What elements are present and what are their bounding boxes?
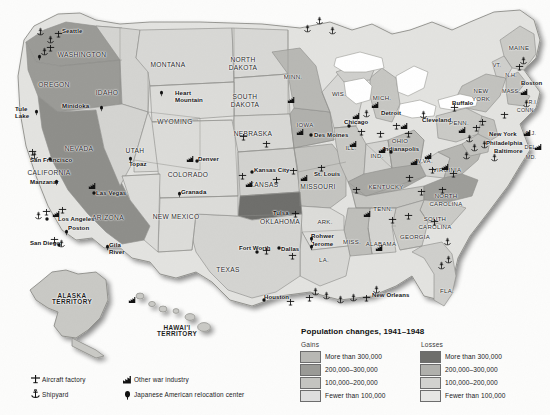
city-dot-icon: [250, 170, 254, 174]
legend-other-war-industry: Other war industry: [120, 375, 189, 384]
shipyard-icon: [419, 111, 428, 120]
state-label: MISSOURI: [300, 184, 335, 191]
other-war-industry-icon: [287, 96, 296, 104]
gains-legend-item: 200,000–300,000: [300, 363, 420, 376]
legend-label: More than 300,000: [325, 353, 382, 360]
legend-swatch: [300, 364, 321, 376]
city-label: Tulsa: [273, 210, 289, 216]
legend-swatch: [420, 364, 441, 376]
japanese-american-relocation-center-icon: [176, 190, 183, 199]
shipyard-icon: [362, 110, 371, 119]
state-label: WIS.: [332, 91, 346, 97]
shipyard-icon: [480, 141, 489, 150]
shipyard-icon: [30, 152, 39, 161]
shipyard-icon: [315, 17, 324, 26]
gains-legend-item: More than 300,000: [300, 350, 420, 363]
aircraft-factory-icon: [239, 133, 248, 142]
japanese-american-relocation-center-icon: [98, 104, 105, 113]
japanese-american-relocation-center-icon: [127, 155, 134, 164]
other-war-industry-icon: [424, 152, 433, 160]
shipyard-icon: [303, 25, 312, 34]
city-dot-icon: [92, 191, 96, 195]
aircraft-factory-icon: [262, 247, 271, 256]
legend-label: More than 300,000: [445, 353, 502, 360]
shipyard-icon: [34, 212, 43, 221]
losses-legend-item: More than 300,000: [420, 350, 540, 363]
aircraft-factory-icon: [500, 111, 509, 120]
state-label: MAINE: [509, 45, 530, 51]
aircraft-factory-icon: [376, 130, 385, 139]
shipyard-icon: [462, 152, 471, 161]
other-war-industry-icon: [300, 174, 309, 182]
other-war-industry-icon: [375, 244, 384, 252]
other-war-industry-icon: [363, 210, 372, 218]
state-label: LA.: [319, 257, 329, 263]
state-label: KENTUCKY: [368, 184, 403, 190]
shipyard-icon: [328, 27, 337, 36]
aircraft-factory-icon: [388, 216, 397, 225]
state-label: OKLAHOMA: [260, 219, 300, 226]
symbol-legend: Aircraft factory Other war industry Ship…: [28, 372, 263, 402]
aircraft-factory-icon: [288, 252, 297, 261]
legend-label: Other war industry: [134, 376, 189, 383]
legend-relocation-center: Japanese American relocation center: [120, 390, 244, 400]
japanese-american-relocation-center-icon: [120, 390, 134, 400]
state-label: NEVADA: [65, 146, 94, 153]
state-label: UTAH: [126, 148, 145, 155]
other-war-industry-icon: [520, 88, 529, 96]
gains-column: Gains More than 300,000200,000–300,00010…: [300, 341, 420, 402]
other-war-industry-icon: [352, 112, 361, 120]
state-label: CALIFORNIA: [27, 170, 70, 177]
population-legend: Population changes, 1941–1948 Gains More…: [300, 327, 542, 409]
aircraft-factory-icon: [404, 212, 413, 221]
state-label: ARIZONA: [92, 215, 124, 222]
city-label: Los Angeles: [58, 216, 95, 222]
other-war-industry-icon: [186, 155, 195, 163]
japanese-american-relocation-center-icon: [36, 53, 43, 62]
shipyard-icon: [437, 262, 446, 271]
aircraft-factory-icon: [42, 208, 51, 217]
other-war-industry-icon: [88, 182, 97, 190]
state-label: DAKOTA: [231, 102, 260, 109]
shipyard-icon: [36, 28, 45, 37]
map-figure: WASHINGTONOREGONIDAHOMONTANANORTHDAKOTAS…: [0, 0, 550, 415]
city-label: Kansas City: [254, 167, 289, 173]
shipyard-icon: [28, 389, 42, 400]
aircraft-factory-icon: [478, 118, 487, 127]
city-dot-icon: [309, 133, 313, 137]
state-label: GEORGIA: [400, 234, 430, 240]
state-label: MONTANA: [151, 62, 186, 69]
gains-header: Gains: [301, 341, 420, 348]
japanese-american-relocation-center-icon: [158, 89, 165, 98]
legend-swatch: [300, 351, 321, 363]
aircraft-factory-icon: [438, 186, 447, 195]
state-label: NEW: [474, 88, 489, 94]
shipyard-icon: [443, 238, 452, 247]
aircraft-factory-icon: [289, 167, 298, 176]
legend-swatch: [420, 390, 441, 402]
legend-label: 100,000–200,000: [325, 379, 378, 386]
city-label: Detroit: [381, 110, 401, 116]
state-label: FLA.: [440, 288, 454, 294]
state-label: MD.: [526, 155, 536, 160]
city-dot-icon: [48, 157, 52, 161]
city-label: Denver: [198, 156, 219, 162]
legend-swatch: [300, 377, 321, 389]
city-dot-icon: [277, 246, 281, 250]
symbol-legend-row: Shipyard Japanese American relocation ce…: [28, 387, 263, 402]
state-label: COLORADO: [168, 172, 209, 179]
aircraft-factory-icon: [405, 174, 414, 183]
relocation-camp-label: Mountain: [175, 97, 203, 103]
city-dot-icon: [195, 159, 199, 163]
population-legend-title: Population changes, 1941–1948: [301, 327, 542, 336]
territory-label: HAWAI'ITERRITORY: [157, 325, 197, 338]
gains-legend-item: 100,000–200,000: [300, 376, 420, 389]
aircraft-factory-icon: [262, 140, 271, 149]
state-label: DAKOTA: [229, 65, 258, 72]
city-dot-icon: [45, 217, 49, 221]
other-war-industry-icon: [534, 143, 543, 151]
legend-label: Japanese American relocation center: [134, 391, 244, 398]
losses-legend-item: 100,000–200,000: [420, 376, 540, 389]
state-label: NORTH: [230, 57, 255, 64]
japanese-american-relocation-center-icon: [33, 108, 40, 117]
